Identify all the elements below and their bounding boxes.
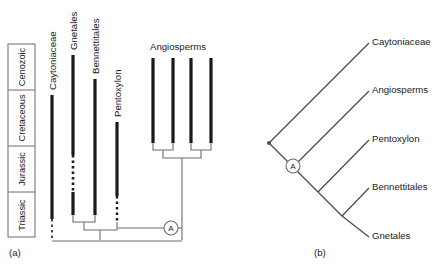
- tip-label-angiosperms: Angiosperms: [372, 84, 428, 95]
- join-gnetales-bennettitales: [73, 215, 95, 222]
- phylogeny-svg: Cenozoic Cretaceous Jurassic Triassic Ca…: [0, 0, 443, 272]
- join-anthophyte-core: [84, 222, 117, 230]
- period-label-triassic: Triassic: [17, 199, 27, 231]
- period-label-cenozoic: Cenozoic: [17, 47, 27, 86]
- branch-pentoxylon: [318, 140, 369, 192]
- branch-angiosperms: [293, 91, 369, 167]
- join-angiosperms-right-pair: [191, 143, 211, 150]
- branch-bennettitales: [342, 188, 369, 216]
- panel-a-caption: (a): [9, 247, 21, 258]
- tip-label-bennettitales: Bennettitales: [372, 181, 428, 192]
- lineage-bennettitales: Bennettitales: [90, 18, 101, 215]
- geologic-time-column: Cenozoic Cretaceous Jurassic Triassic: [8, 44, 35, 237]
- period-label-jurassic: Jurassic: [17, 152, 27, 186]
- branch-caytoniaceae: [269, 43, 369, 143]
- tip-label-pentoxylon: Pentoxylon: [372, 133, 419, 144]
- phylogeny-figure: Cenozoic Cretaceous Jurassic Triassic Ca…: [0, 0, 443, 272]
- taxon-label-pentoxylon: Pentoxylon: [112, 70, 123, 117]
- lineage-gnetales: Gnetales: [68, 11, 79, 215]
- taxon-label-caytoniaceae: Caytoniaceae: [47, 31, 58, 90]
- join-angiosperms-left-pair: [153, 143, 173, 150]
- panel-b: A Caytoniaceae Angiosperms Pentoxylon Be…: [267, 36, 431, 258]
- lineage-angiosperms: Angiosperms: [150, 41, 211, 240]
- taxon-label-bennettitales: Bennettitales: [90, 18, 101, 74]
- join-angiosperms-crown: [163, 150, 201, 158]
- branch-gnetales: [342, 216, 369, 237]
- lineage-pentoxylon: Pentoxylon: [112, 70, 123, 222]
- taxon-label-gnetales: Gnetales: [68, 11, 79, 50]
- panel-a: Cenozoic Cretaceous Jurassic Triassic Ca…: [8, 11, 211, 258]
- tip-label-caytoniaceae: Caytoniaceae: [372, 36, 431, 47]
- lineage-caytoniaceae: Caytoniaceae: [47, 31, 58, 241]
- panel-b-caption: (b): [314, 247, 326, 258]
- node-a-letter-panel-b: A: [290, 162, 296, 171]
- taxon-label-angiosperms: Angiosperms: [150, 41, 206, 52]
- period-label-cretaceous: Cretaceous: [17, 94, 27, 141]
- node-a-letter-panel-a: A: [168, 224, 174, 233]
- branch-node-b-to-node-c: [318, 192, 342, 216]
- tip-label-gnetales: Gnetales: [372, 230, 411, 241]
